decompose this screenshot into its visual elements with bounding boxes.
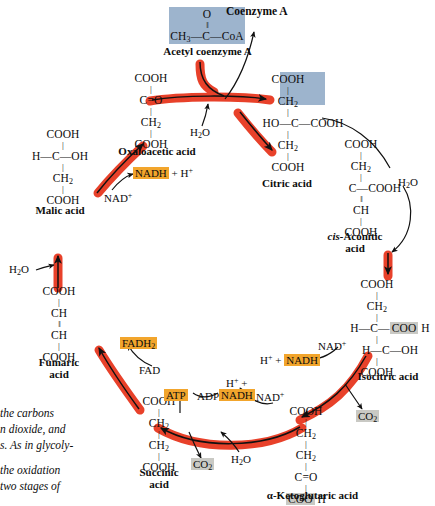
label-alpha-ketoglutaric-acid: α-Ketoglutaric acid (250, 489, 375, 501)
molecule-fumaric-acid: COOH | CH ‖ CH | COOH (28, 285, 90, 364)
label-oxaloacetic-acid: Oxaloacetic acid (112, 145, 202, 157)
label-cis-aconitic-acid: cis-Aconitic acid (316, 230, 394, 254)
fumaric-label-line1: Fumaric (28, 356, 90, 368)
aconitic-row-1: CH2 (330, 160, 420, 173)
isocitric-row-3: H—C—OH (345, 344, 435, 357)
arrow-water-into-citrate (202, 104, 208, 126)
acetylcoa-coa: CoA (222, 30, 244, 42)
caption-block-2: the oxidation two stages of (0, 462, 60, 494)
caption-line-1: the carbons (0, 405, 73, 421)
ketoglutaric-bond-0: | (275, 418, 337, 427)
label-malic-acid: Malic acid (22, 204, 98, 216)
isocitric-bond-2: | (345, 335, 435, 344)
ketoglutaric-bond-2: | (275, 462, 337, 471)
citric-bond-1: | (255, 108, 351, 117)
label-nad-plus-ketoglutarate: NAD+ (256, 389, 284, 403)
malic-bond-1: | (22, 163, 98, 172)
label-nadh-ketoglutarate: NADH (219, 389, 255, 401)
isocitric-bond-3: | (345, 357, 435, 366)
label-water-bottom: H2O (231, 453, 251, 469)
label-nad-plus-isocitrate: NAD+ (318, 338, 346, 352)
succinic-bond-0: | (128, 408, 190, 417)
krebs-cycle-diagram: O ‖ CH3—C—CoA Acetyl coenzyme A Coenzyme… (0, 0, 435, 506)
fumaric-bond-1: ‖ (28, 320, 90, 329)
citric-row-0: COOH (255, 73, 351, 86)
malic-bond-2: | (22, 185, 98, 194)
label-h-plus-ketoglutarate: H+ + (226, 376, 247, 389)
molecule-succinic-acid: COOH | CH2 | CH2 | COOH (128, 395, 190, 474)
label-atp: ATP (164, 389, 188, 401)
aconitic-bond-0: | (330, 151, 420, 160)
malic-bond-0: | (22, 141, 98, 150)
label-nadh-isocitrate-group: H+ + NADH (260, 353, 320, 366)
aconitic-bond-2: ‖ (330, 195, 420, 204)
label-coenzyme-a: Coenzyme A (226, 5, 288, 17)
succinic-bond-2: | (128, 452, 190, 461)
atp-chip: ATP (164, 389, 188, 401)
fumaric-bond-0: | (28, 298, 90, 307)
acetylcoa-backbone: CH3—C—CoA (169, 30, 245, 43)
caption-block-1: the carbons n dioxide, and s. As in glyc… (0, 405, 73, 453)
citric-row-1: CH2 (255, 95, 351, 108)
label-fad: FAD (139, 364, 160, 376)
isocitric-bond-1: | (345, 313, 435, 322)
label-water-right: H2O (398, 176, 418, 192)
succinic-label-line2: acid (128, 478, 190, 490)
caption-line-4: the oxidation (0, 462, 60, 478)
nadh-chip-isocitrate: NADH (284, 354, 320, 366)
acetylcoa-double-bond: ‖ (169, 21, 245, 30)
label-co2-bottom: CO2 (191, 458, 214, 472)
aconitic-row-0: COOH (330, 138, 420, 151)
molecule-malic-acid: COOH | H—C—OH | CH2 | COOH (22, 128, 98, 207)
malic-row-2: CH2 (22, 172, 98, 185)
fumaric-label-line2: acid (28, 368, 90, 380)
ketoglutaric-bond-1: | (275, 440, 337, 449)
aconitic-row-3: CH (330, 204, 420, 217)
arrow-water-fumarate (36, 265, 54, 270)
label-isocitric-acid: Isocitric acid (346, 370, 430, 382)
label-nad-plus-malate: NAD+ (104, 190, 132, 204)
nadh-chip-oxaloacetic: NADH (133, 167, 169, 179)
caption-line-2: n dioxide, and (0, 421, 73, 437)
acetylcoa-methyl: CH (170, 30, 186, 42)
label-water-left: H2O (9, 263, 29, 279)
isocitric-row-1: CH2 (345, 300, 435, 313)
isocitric-row-0: COOH (345, 278, 435, 291)
citric-row-2: HO—C—COOH (255, 117, 351, 130)
succinic-bond-1: | (128, 430, 190, 439)
caption-line-3: s. As in glycoly- (0, 437, 73, 453)
co2-chip-bottom: CO2 (191, 458, 214, 470)
molecule-isocitric-acid: COOH | CH2 | H—C—COO H | H—C—OH | COOH (345, 278, 435, 379)
label-fumaric-acid: Fumaric acid (28, 356, 90, 380)
nadh-chip-ketoglutarate: NADH (219, 389, 255, 401)
molecule-oxaloacetic-acid: COOH | C=O | CH2 | COOH (120, 72, 182, 151)
label-adp: ADP (197, 390, 219, 402)
oxaloacetic-bond-2: | (120, 129, 182, 138)
aconitic-label-line2: acid (316, 242, 394, 254)
malic-row-1: H—C—OH (22, 150, 98, 163)
aconitic-bond-3: | (330, 217, 420, 226)
fadh2-chip: FADH2 (120, 337, 157, 349)
label-citric-acid: Citric acid (248, 177, 326, 189)
arrow-co2-isocitrate (345, 384, 362, 409)
label-acetyl-coenzyme-a: Acetyl coenzyme A (155, 45, 260, 57)
label-co2-isocitrate: CO2 (356, 410, 379, 424)
malic-row-0: COOH (22, 128, 98, 141)
label-succinic-acid: Succinic acid (128, 466, 190, 490)
nadh-plus-h-oxaloacetic: + H+ (169, 167, 193, 179)
aconitic-label-cis: cis- (328, 230, 344, 242)
oxaloacetic-bond-1: | (120, 107, 182, 116)
co2-chip-isocitrate: CO2 (356, 410, 379, 422)
citric-bond-0: | (255, 86, 351, 95)
succinic-label-line1: Succinic (128, 466, 190, 478)
label-nadh-oxaloacetic-group: NADH + H+ (133, 166, 193, 179)
acetylcoa-carbonyl: —C— (191, 30, 222, 42)
caption-line-5: two stages of (0, 478, 60, 494)
aconitic-label-rest: Aconitic (343, 230, 382, 242)
isocitric-row-2: H—C—COO H (345, 322, 435, 335)
h-plus-isocitrate: H+ + (260, 354, 284, 366)
label-fadh2: FADH2 (120, 337, 157, 351)
oxaloacetic-bond-0: | (120, 85, 182, 94)
isocitric-highlight-cooh: COO (390, 322, 419, 334)
fumaric-bond-2: | (28, 342, 90, 351)
